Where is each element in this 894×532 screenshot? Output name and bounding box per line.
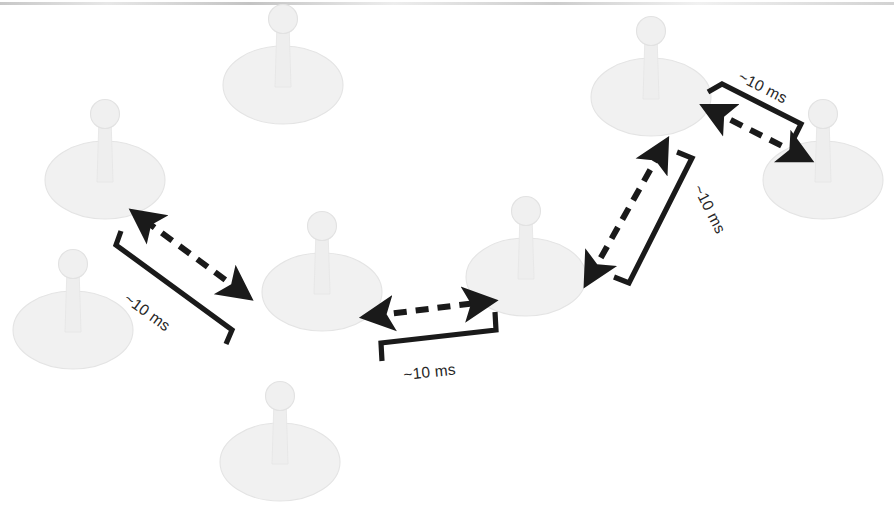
node-chain-2[interactable]: [466, 197, 586, 317]
timing-diagram-svg: ~10 ms ~10 ms ~10 ms ~10 ms: [0, 0, 894, 532]
connection-link-far-right[interactable]: ~10 ms: [708, 68, 801, 152]
link-center-latency-label: ~10 ms: [403, 361, 457, 383]
link-right-up-dashed-arrow: [590, 156, 658, 277]
node-chain-4[interactable]: [763, 100, 883, 220]
link-right-up-latency-label: ~10 ms: [690, 182, 729, 237]
node-left-lower[interactable]: [13, 250, 133, 370]
figure-canvas: ~10 ms ~10 ms ~10 ms ~10 ms: [0, 0, 894, 532]
connection-link-right-up[interactable]: ~10 ms: [590, 152, 729, 283]
connection-link-left[interactable]: ~10 ms: [116, 222, 243, 344]
node-top-left-far[interactable]: [45, 100, 165, 220]
node-bottom-center[interactable]: [220, 382, 340, 502]
node-chain-3[interactable]: [591, 17, 711, 137]
link-center-dashed-arrow: [372, 303, 476, 316]
link-center-bracket: [381, 312, 496, 361]
link-far-right-latency-label: ~10 ms: [736, 68, 791, 107]
link-left-dashed-arrow: [147, 222, 243, 293]
node-chain-1[interactable]: [262, 212, 382, 332]
connection-link-center[interactable]: ~10 ms: [372, 303, 496, 383]
node-top-center[interactable]: [223, 5, 343, 125]
